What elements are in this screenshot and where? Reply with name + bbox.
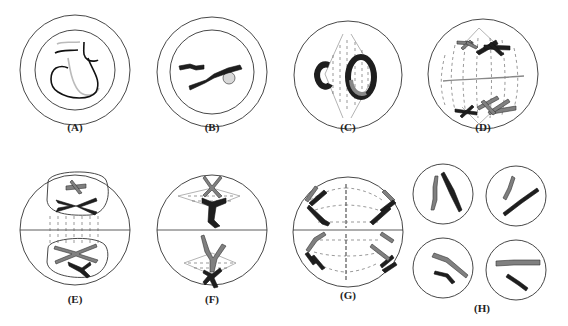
label-d: (D) <box>475 121 490 133</box>
panel-b-pachytene <box>157 17 267 127</box>
label-e: (E) <box>68 293 83 305</box>
panel-e-telophase <box>20 172 130 285</box>
panel-a-leptotene <box>20 15 130 125</box>
label-b: (B) <box>205 121 220 133</box>
meiosis-diagram: .cell { fill:none; stroke:#333; stroke-w… <box>0 0 568 326</box>
label-g: (G) <box>340 289 356 301</box>
panel-c-diakinesis <box>294 21 402 129</box>
label-a: (A) <box>67 121 82 133</box>
label-c: (C) <box>340 121 355 133</box>
panel-h-telophase-ii <box>413 164 546 300</box>
panel-f-metaphase-ii <box>157 175 267 288</box>
panel-d-metaphase <box>428 19 538 129</box>
panel-g-anaphase-ii <box>293 177 403 287</box>
label-h: (H) <box>474 302 490 314</box>
label-f: (F) <box>205 293 219 305</box>
